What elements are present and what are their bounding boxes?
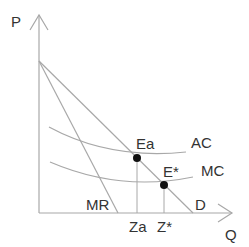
point-ea: [133, 154, 141, 162]
label-mr: MR: [86, 196, 109, 213]
demand-curve: [39, 61, 193, 213]
y-axis-label: P: [11, 13, 21, 30]
label-mc: MC: [201, 162, 224, 179]
label-estar: E*: [163, 163, 179, 180]
marginal-revenue-curve: [39, 61, 118, 213]
label-d: D: [195, 196, 206, 213]
y-axis: [30, 15, 48, 213]
average-cost-curve: [49, 127, 186, 154]
label-zstar: Z*: [157, 218, 172, 235]
label-ea: Ea: [136, 135, 155, 152]
label-ac: AC: [191, 134, 212, 151]
x-axis-label: Q: [225, 226, 237, 243]
label-za: Za: [129, 218, 147, 235]
economics-diagram: P Q Ea E* AC MC MR D Za Z*: [0, 0, 249, 247]
point-estar: [160, 181, 168, 189]
